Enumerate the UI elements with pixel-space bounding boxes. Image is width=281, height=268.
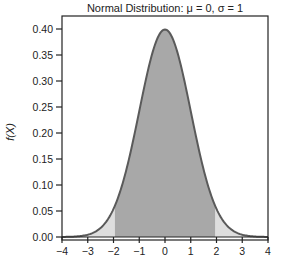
x-tick-label: −4: [56, 245, 68, 257]
y-axis-ticks: 0.000.050.100.150.200.250.300.350.40: [33, 23, 62, 243]
y-tick-label: 0.35: [33, 49, 54, 61]
x-tick-label: −2: [108, 245, 120, 257]
y-tick-label: 0.05: [33, 205, 54, 217]
x-tick-label: −3: [82, 245, 94, 257]
plot-area: [62, 16, 268, 240]
y-tick-label: 0.30: [33, 75, 54, 87]
y-tick-label: 0.00: [33, 231, 54, 243]
y-tick-label: 0.25: [33, 101, 54, 113]
central-region: [115, 30, 216, 237]
y-tick-label: 0.20: [33, 127, 54, 139]
y-axis-label: f(X): [4, 123, 16, 141]
y-tick-label: 0.40: [33, 23, 54, 35]
y-tick-label: 0.10: [33, 179, 54, 191]
x-tick-label: 0: [162, 245, 168, 257]
x-tick-label: −1: [133, 245, 145, 257]
x-tick-label: 1: [188, 245, 194, 257]
x-tick-label: 3: [239, 245, 245, 257]
x-tick-label: 2: [214, 245, 220, 257]
normal-distribution-chart: Normal Distribution: μ = 0, σ = 1 0.000.…: [0, 0, 281, 268]
chart-title: Normal Distribution: μ = 0, σ = 1: [87, 2, 243, 14]
x-tick-label: 4: [265, 245, 271, 257]
y-tick-label: 0.15: [33, 153, 54, 165]
